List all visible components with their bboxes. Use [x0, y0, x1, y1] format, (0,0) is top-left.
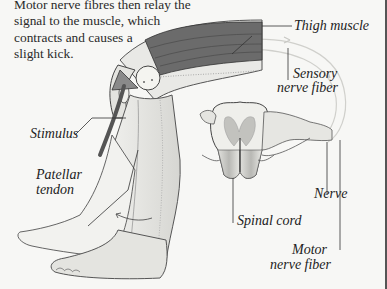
label-patellar-tendon-line1: Patellar [36, 167, 82, 183]
caption-line: Motor nerve fibres then relay the [14, 0, 274, 13]
caption-text: Motor nerve fibres then relay the signal… [14, 0, 274, 62]
label-sensory-nerve-fiber-line2: nerve fiber [277, 80, 338, 96]
caption-line: slight kick. [14, 46, 274, 62]
label-spinal-cord: Spinal cord [237, 213, 301, 229]
caption-line: contracts and causes a [14, 30, 274, 46]
label-stimulus: Stimulus [30, 126, 78, 142]
label-motor-nerve-fiber-line2: nerve fiber [270, 257, 331, 273]
label-motor-nerve-fiber-line1: Motor [292, 242, 327, 258]
label-patellar-tendon-line2: tendon [36, 182, 74, 198]
spinal-cord-illustration [200, 102, 332, 178]
label-thigh-muscle: Thigh muscle [294, 18, 369, 34]
caption-line: signal to the muscle, which [14, 13, 274, 29]
label-nerve: Nerve [314, 186, 347, 202]
